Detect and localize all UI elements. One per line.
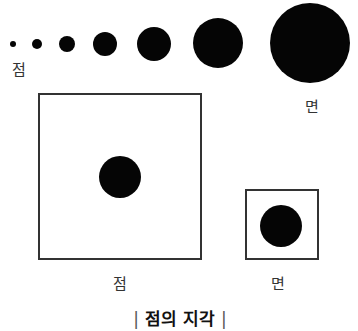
caption-right-bar: |	[221, 309, 227, 329]
caption-text: 점의 지각	[145, 309, 215, 329]
dot-in-large-frame	[99, 156, 141, 198]
label-plane-bottom: 면	[271, 272, 285, 293]
dot-size-2	[32, 39, 42, 49]
dot-in-small-frame	[260, 205, 302, 247]
dot-size-5	[137, 27, 171, 61]
label-plane-top: 면	[305, 95, 319, 116]
dot-size-4	[93, 32, 117, 56]
dot-size-7	[270, 3, 350, 83]
caption-left-bar: |	[133, 309, 139, 329]
label-point-bottom: 점	[113, 272, 127, 293]
dot-size-3	[59, 36, 75, 52]
figure-caption: |점의 지각|	[127, 305, 232, 330]
dot-size-1	[10, 41, 16, 47]
label-point-top: 점	[12, 58, 26, 79]
dot-size-6	[193, 18, 243, 68]
